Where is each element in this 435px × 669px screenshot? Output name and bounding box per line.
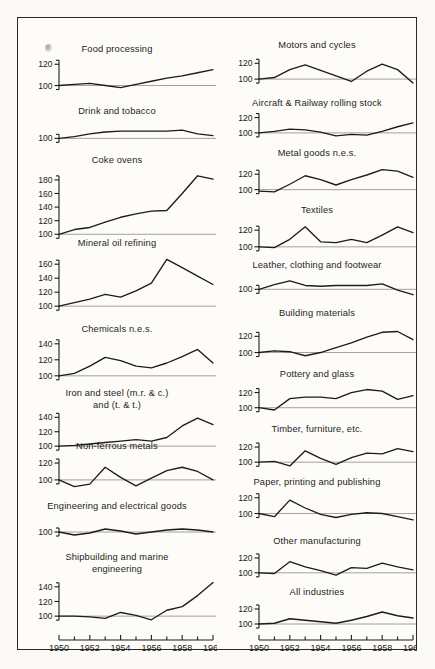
data-line-textiles (259, 227, 413, 248)
y-tick-label: 160 (38, 189, 53, 199)
data-line-non-ferrous-metals (59, 467, 213, 486)
chart-title-motors-and-cycles: Motors and cycles (217, 40, 417, 51)
y-tick-label: 120 (238, 331, 253, 341)
y-tick-label: 100 (238, 284, 253, 294)
x-tick-label: 1958 (372, 643, 392, 653)
data-line-coke-ovens (59, 176, 213, 234)
data-line-drink-and-tobacco (59, 130, 213, 138)
y-tick-label: 100 (38, 133, 53, 143)
y-tick-label: 100 (38, 475, 53, 485)
y-tick-label: 120 (238, 388, 253, 398)
chart-plot-metal-goods-nes: 100120 (217, 161, 417, 199)
y-tick-label: 100 (238, 568, 253, 578)
chart-title-line-1: Iron and steel (m.r. & c.) (65, 388, 168, 398)
y-tick-label: 120 (238, 225, 253, 235)
chart-title-pottery-and-glass: Pottery and glass (217, 369, 417, 380)
data-line-aircraft-and-railway-rolling-stock (259, 123, 413, 136)
x-tick-label: 1952 (280, 643, 300, 653)
chart-plot-all-industries: 100120 (217, 599, 417, 631)
y-tick-label: 100 (38, 81, 53, 91)
data-line-timber-furniture-etc (259, 449, 413, 466)
chart-title-all-industries: All industries (217, 587, 417, 598)
data-line-motors-and-cycles (259, 64, 413, 83)
chart-title-drink-and-tobacco: Drink and tobacco (17, 106, 217, 117)
figure-page: Food processing100120Drink and tobacco10… (0, 0, 435, 669)
chart-plot-timber-furniture-etc: 100120 (217, 437, 417, 473)
data-line-food-processing (59, 70, 213, 88)
y-tick-label: 120 (238, 493, 253, 503)
chart-title-leather-clothing-and-footwear: Leather, clothing and footwear (217, 260, 417, 271)
chart-title-timber-furniture-etc: Timber, furniture, etc. (217, 424, 417, 435)
chart-title-aircraft-and-railway-rolling-stock: Aircraft & Railway rolling stock (217, 98, 417, 109)
x-tick-label: 1950 (49, 643, 69, 653)
x-tick-label: 1958 (172, 643, 192, 653)
data-line-chemicals-nes (59, 349, 213, 375)
x-tick-label: 1950 (249, 643, 269, 653)
chart-plot-leather-clothing-and-footwear: 100 (217, 273, 417, 301)
y-tick-label: 100 (238, 619, 253, 629)
y-tick-label: 120 (238, 553, 253, 563)
x-axis-left-column: 195019521954195619581960 (17, 631, 217, 661)
chart-title-chemicals-nes: Chemicals n.e.s. (17, 324, 217, 335)
chart-plot-motors-and-cycles: 100120 (217, 53, 417, 91)
chart-plot-engineering-and-electrical-goods: 100 (17, 514, 217, 542)
y-tick-label: 120 (38, 287, 53, 297)
chart-title-paper-printing-and-publishing: Paper, printing and publishing (217, 477, 417, 488)
data-line-leather-clothing-and-footwear (259, 281, 413, 295)
right-chart-column: Motors and cycles100120Aircraft & Railwa… (217, 17, 417, 650)
data-line-mineral-oil-refining (59, 259, 213, 306)
y-tick-label: 140 (38, 412, 53, 422)
chart-plot-chemicals-nes: 100120140 (17, 335, 217, 383)
chart-plot-mineral-oil-refining: 100120140160 (17, 249, 217, 313)
data-line-paper-printing-and-publishing (259, 500, 413, 520)
chart-plot-coke-ovens: 100120140160180 (17, 165, 217, 241)
y-tick-label: 100 (238, 74, 253, 84)
y-tick-label: 100 (38, 371, 53, 381)
chart-plot-paper-printing-and-publishing: 100120 (217, 489, 417, 527)
y-tick-label: 140 (38, 202, 53, 212)
y-tick-label: 120 (38, 458, 53, 468)
y-tick-label: 120 (38, 597, 53, 607)
left-chart-column: Food processing100120Drink and tobacco10… (17, 17, 217, 650)
y-tick-label: 120 (238, 113, 253, 123)
chart-title-metal-goods-nes: Metal goods n.e.s. (217, 148, 417, 159)
y-tick-label: 120 (238, 58, 253, 68)
y-tick-label: 100 (38, 527, 53, 537)
x-tick-label: 1954 (111, 643, 131, 653)
chart-plot-textiles: 100120 (217, 217, 417, 255)
y-tick-label: 100 (238, 348, 253, 358)
chart-title-line-2: engineering (92, 564, 142, 574)
y-tick-label: 100 (38, 611, 53, 621)
chart-title-food-processing: Food processing (17, 44, 217, 55)
y-tick-label: 140 (38, 582, 53, 592)
data-line-metal-goods-nes (259, 170, 413, 192)
chart-title-line-1: Shipbuilding and marine (65, 552, 168, 562)
chart-plot-shipbuilding-and-marine-engineering: 100120140 (17, 574, 217, 626)
chart-title-building-materials: Building materials (217, 308, 417, 319)
data-line-shipbuilding-and-marine-engineering (59, 582, 213, 619)
y-tick-label: 140 (38, 339, 53, 349)
chart-plot-food-processing: 100120 (17, 56, 217, 98)
chart-title-mineral-oil-refining: Mineral oil refining (17, 238, 217, 249)
y-tick-label: 100 (238, 457, 253, 467)
chart-title-iron-and-steel: Iron and steel (m.r. & c.)and (t. & t.) (17, 388, 217, 411)
y-tick-label: 120 (238, 442, 253, 452)
y-tick-label: 100 (238, 128, 253, 138)
y-tick-label: 120 (38, 355, 53, 365)
y-tick-label: 120 (238, 604, 253, 614)
y-tick-label: 120 (38, 216, 53, 226)
chart-plot-building-materials: 100120 (217, 321, 417, 363)
data-line-pottery-and-glass (259, 390, 413, 410)
x-tick-label: 1960 (203, 643, 217, 653)
y-tick-label: 160 (38, 259, 53, 269)
chart-title-line-2: and (t. & t.) (93, 400, 141, 410)
chart-title-other-manufacturing: Other manufacturing (217, 536, 417, 547)
chart-plot-other-manufacturing: 100120 (217, 548, 417, 582)
y-tick-label: 180 (38, 175, 53, 185)
chart-plot-drink-and-tobacco: 100 (17, 118, 217, 146)
chart-title-non-ferrous-metals: Non-ferrous metals (17, 441, 217, 452)
y-tick-label: 120 (38, 427, 53, 437)
chart-title-textiles: Textiles (217, 205, 417, 216)
x-tick-label: 1956 (141, 643, 161, 653)
x-tick-label: 1952 (80, 643, 100, 653)
